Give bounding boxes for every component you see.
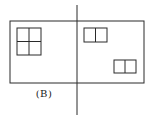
- diagram-canvas: [0, 0, 151, 123]
- four-pane-window: [17, 28, 41, 55]
- two-pane-window-top: [84, 28, 107, 42]
- figure-caption: (B): [30, 88, 58, 99]
- two-pane-window-bottom: [114, 60, 136, 73]
